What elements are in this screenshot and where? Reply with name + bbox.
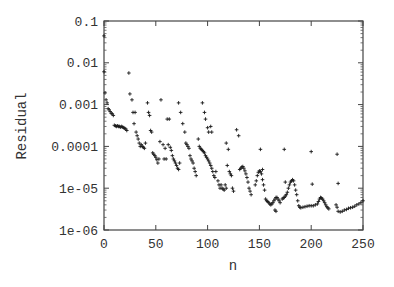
data-point-marker [223,183,227,187]
data-point-marker [237,134,241,138]
data-point-marker [225,164,229,168]
data-point-marker [177,101,181,105]
data-point-marker [295,193,299,197]
data-point-marker [254,179,258,183]
data-point-marker [301,205,305,209]
residual-chart: 1e-061e-050.00010.0010.010.1 05010015020… [0,0,394,287]
data-point-marker [194,174,198,178]
data-point-marker [284,180,288,184]
data-point-marker [210,130,214,134]
y-axis-label: Residual [14,92,30,159]
data-point-marker [227,148,231,152]
data-point-marker [128,92,132,96]
data-point-marker [204,117,208,121]
x-tick-label: 200 [299,237,322,252]
data-point-marker [246,180,250,184]
data-point-marker [164,157,168,161]
data-point-marker [158,140,162,144]
y-tick-label: 1e-06 [59,224,98,239]
data-point-marker [102,34,106,38]
x-tick-label: 100 [196,237,219,252]
data-point-marker [224,141,228,145]
y-tick-label: 0.0001 [51,140,98,155]
x-axis-label: n [229,258,237,274]
x-tick-label: 0 [100,237,108,252]
data-point-marker [256,174,260,178]
data-point-marker [132,122,136,126]
data-point-marker [287,186,291,190]
data-point-marker [159,98,163,102]
data-point-marker [349,206,353,210]
data-point-marker [127,71,131,75]
data-point-marker [361,199,365,203]
data-point-marker [309,150,313,154]
data-point-marker [196,137,200,141]
data-point-marker [259,148,263,152]
y-tick-label: 0.001 [59,98,98,113]
x-tick-label: 50 [148,237,164,252]
data-point-marker [216,179,220,183]
data-point-marker [166,143,170,147]
data-point-marker [130,98,134,102]
data-point-marker [296,199,300,203]
data-point-marker [163,147,167,151]
data-point-marker [144,141,148,145]
data-point-marker [167,117,171,121]
data-point-marker [305,204,309,208]
data-point-marker [214,170,218,174]
data-point-marker [282,148,286,152]
data-point-marker [181,122,185,126]
data-point-marker [336,210,340,214]
data-point-marker [203,111,207,115]
data-point-marker [263,188,267,192]
data-point-marker [134,130,138,134]
data-point-marker [183,130,187,134]
x-tick-label: 250 [351,237,374,252]
data-point-marker [335,152,339,156]
data-point-marker [133,111,137,115]
y-tick-label: 1e-05 [59,182,98,197]
data-point-marker [253,183,257,187]
data-point-marker [224,186,228,190]
data-point-marker [235,128,239,132]
data-point-marker [146,101,150,105]
data-point-marker [209,125,213,129]
data-point-marker [293,183,297,187]
data-point-marker [294,188,298,192]
data-point-marker [136,137,140,141]
data-point-marker [336,182,340,186]
data-point-marker [157,157,161,161]
data-point-marker [161,143,165,147]
data-points [102,34,365,214]
data-point-marker [219,183,223,187]
data-point-marker [170,149,174,153]
data-point-marker [262,183,266,187]
data-point-marker [169,146,173,150]
data-point-marker [193,170,197,174]
data-point-marker [211,170,215,174]
data-point-marker [261,178,265,182]
data-point-marker [171,154,175,158]
y-tick-label: 0.01 [67,56,98,71]
data-point-marker [206,126,210,130]
data-point-marker [303,205,307,209]
data-point-marker [102,70,106,74]
data-point-marker [207,130,211,134]
x-axis-ticks: 050100150200250 [100,21,375,252]
data-point-marker [261,168,265,172]
data-point-marker [179,111,183,115]
data-point-marker [338,210,342,214]
data-point-marker [178,161,182,165]
data-point-marker [156,161,160,165]
data-point-marker [188,154,192,158]
y-tick-label: 0.1 [75,15,99,30]
data-point-marker [249,193,253,197]
data-point-marker [310,182,314,186]
data-point-marker [201,101,205,105]
x-tick-label: 150 [248,237,271,252]
data-point-marker [192,166,196,170]
data-point-marker [135,134,139,138]
data-point-marker [245,176,249,180]
